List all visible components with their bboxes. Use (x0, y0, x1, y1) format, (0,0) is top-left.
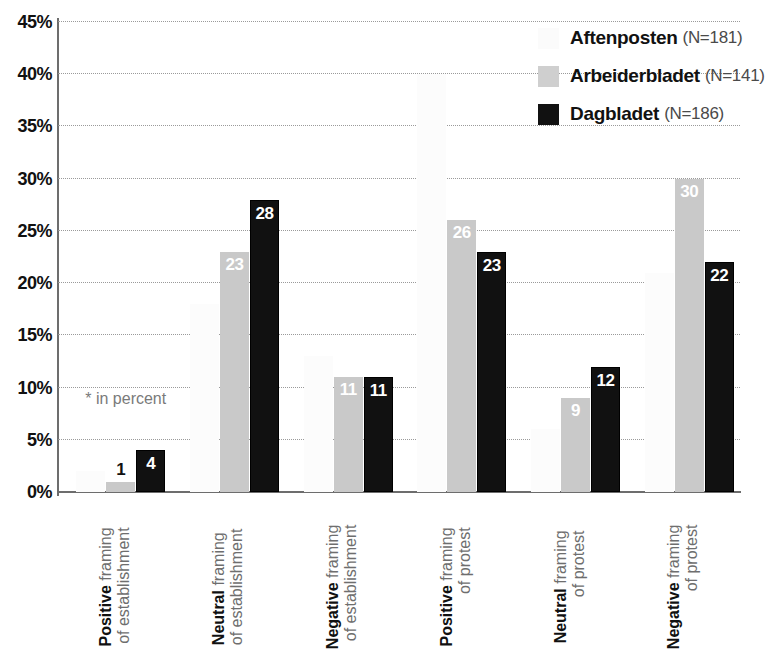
category-label-rest: framing (438, 527, 455, 585)
legend: Aftenposten(N=181)Arbeiderbladet(N=141)D… (538, 22, 765, 136)
bar-group: 2328 (172, 22, 286, 492)
x-axis-category-label: Positive framingof protest (399, 495, 513, 664)
legend-swatch-aftenposten (538, 28, 559, 49)
y-axis-tick-label: 5% (2, 429, 52, 450)
legend-item[interactable]: Aftenposten(N=181) (538, 22, 765, 54)
y-axis-tick-label: 35% (2, 116, 52, 137)
bar-arbeiderbladet[interactable]: 9 (561, 398, 590, 492)
legend-item[interactable]: Arbeiderbladet(N=141) (538, 60, 765, 92)
footnote-in-percent: * in percent (85, 390, 166, 408)
bar-value-label: 9 (561, 402, 590, 419)
category-label-rest: framing (211, 532, 228, 590)
bar-aftenposten[interactable] (531, 429, 560, 492)
y-axis-tick-label: 15% (2, 325, 52, 346)
legend-series-count: (N=186) (664, 104, 724, 124)
category-label-emphasis: Positive (438, 585, 455, 646)
x-axis-category-label: Negative framingof protest (626, 495, 740, 664)
bar-value-label: 11 (365, 382, 392, 399)
bar-dagbladet[interactable]: 23 (477, 252, 506, 492)
legend-item[interactable]: Dagbladet(N=186) (538, 98, 765, 130)
bar-aftenposten[interactable] (190, 304, 219, 492)
bar-arbeiderbladet[interactable]: 11 (334, 377, 363, 492)
y-axis-tick-label: 40% (2, 64, 52, 85)
bar-group: 14 (58, 22, 172, 492)
category-label-line2: of establishment (115, 527, 133, 646)
legend-series-count: (N=181) (683, 28, 743, 48)
category-label-line2: of protest (683, 525, 701, 650)
bar-arbeiderbladet[interactable]: 30 (675, 179, 704, 492)
bar-dagbladet[interactable]: 11 (364, 377, 393, 492)
x-axis-category-label: Neutral framingof protest (513, 495, 627, 664)
bar-dagbladet[interactable]: 12 (591, 367, 620, 492)
bar-arbeiderbladet[interactable]: 1 (106, 482, 135, 492)
x-axis-category-label: Negative framingof establishment (285, 495, 399, 664)
bar-value-label: 4 (137, 455, 164, 472)
y-axis-tick-label: 10% (2, 377, 52, 398)
bar-value-label: 12 (592, 372, 619, 389)
x-axis-category-labels: Positive framingof establishmentNeutral … (58, 495, 740, 664)
category-label-emphasis: Positive (97, 585, 114, 646)
bar-aftenposten[interactable] (76, 471, 105, 492)
bar-dagbladet[interactable]: 4 (136, 450, 165, 492)
y-axis-tick-label: 25% (2, 220, 52, 241)
legend-series-name: Arbeiderbladet (570, 65, 700, 87)
bar-aftenposten[interactable] (645, 273, 674, 492)
category-label-rest: framing (552, 530, 569, 588)
legend-swatch-dagbladet (538, 104, 559, 125)
bar-group: 1111 (285, 22, 399, 492)
bar-value-label: 23 (478, 257, 505, 274)
legend-series-name: Dagbladet (570, 103, 659, 125)
bar-aftenposten[interactable] (417, 74, 446, 492)
category-label-rest: framing (665, 525, 682, 583)
y-axis-tick-label: 30% (2, 168, 52, 189)
bar-value-label: 30 (675, 183, 704, 200)
legend-swatch-arbeiderbladet (538, 66, 559, 87)
bar-aftenposten[interactable] (304, 356, 333, 492)
bar-value-label: 26 (447, 224, 476, 241)
bar-value-label: 28 (251, 205, 278, 222)
category-label-line2: of protest (456, 527, 474, 646)
bar-value-label: 1 (106, 461, 135, 478)
bar-dagbladet[interactable]: 28 (250, 200, 279, 492)
bar-dagbladet[interactable]: 22 (705, 262, 734, 492)
category-label-line2: of establishment (342, 525, 360, 650)
legend-series-count: (N=141) (705, 66, 765, 86)
bar-chart: 0%5%10%15%20%25%30%35%40%45% 14232811112… (0, 0, 767, 664)
category-label-rest: framing (324, 525, 341, 583)
bar-arbeiderbladet[interactable]: 23 (220, 252, 249, 492)
category-label-emphasis: Negative (324, 582, 341, 649)
bar-value-label: 11 (334, 381, 363, 398)
category-label-rest: framing (97, 527, 114, 585)
legend-series-name: Aftenposten (570, 27, 678, 49)
category-label-emphasis: Negative (665, 582, 682, 649)
bar-group: 2623 (399, 22, 513, 492)
bar-value-label: 23 (220, 256, 249, 273)
y-axis-tick-labels: 0%5%10%15%20%25%30%35%40%45% (0, 22, 52, 492)
y-axis-tick-label: 45% (2, 12, 52, 33)
bar-arbeiderbladet[interactable]: 26 (447, 220, 476, 492)
y-axis-tick-label: 20% (2, 273, 52, 294)
category-label-line2: of establishment (228, 529, 246, 646)
x-axis-category-label: Neutral framingof establishment (172, 495, 286, 664)
bar-value-label: 22 (706, 267, 733, 284)
category-label-line2: of protest (569, 530, 587, 643)
x-axis-category-label: Positive framingof establishment (58, 495, 172, 664)
category-label-emphasis: Neutral (552, 588, 569, 643)
category-label-emphasis: Neutral (211, 590, 228, 645)
y-axis-tick-label: 0% (2, 482, 52, 503)
